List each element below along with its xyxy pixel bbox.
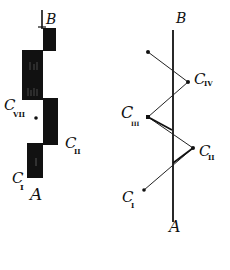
point-c-i xyxy=(142,188,146,192)
left-label-a: A xyxy=(28,184,42,204)
left-label-c-i: C I xyxy=(12,169,24,192)
left-label-c-ii: C II xyxy=(65,134,81,156)
left-diagram: B C VII C II C xyxy=(4,10,81,204)
left-label-c-vii: C VII xyxy=(4,96,25,119)
bottom-block xyxy=(27,143,43,178)
top-block xyxy=(43,28,56,51)
svg-text:III: III xyxy=(131,120,140,127)
svg-text:I: I xyxy=(20,182,24,192)
right-label-c-ii: C II xyxy=(199,142,215,162)
right-label-b: B xyxy=(175,10,186,26)
right-label-c-i: C I xyxy=(122,188,134,210)
thick-segment-2 xyxy=(173,148,193,163)
left-label-b: B xyxy=(45,11,56,27)
center-dot xyxy=(34,116,38,120)
right-label-a: A xyxy=(167,217,181,236)
large-block xyxy=(22,50,43,100)
point-c-ii xyxy=(191,146,195,150)
middle-block xyxy=(43,98,58,145)
point-c-iii xyxy=(146,115,150,119)
svg-text:IV: IV xyxy=(204,79,213,88)
svg-text:I: I xyxy=(131,201,134,210)
right-label-c-iv: C IV xyxy=(194,70,213,88)
right-label-c-iii: C III xyxy=(121,103,140,127)
thick-segment-1 xyxy=(148,117,172,130)
zigzag-path xyxy=(144,52,193,190)
svg-text:II: II xyxy=(74,147,81,156)
diagram-canvas: B C VII C II C xyxy=(0,0,230,270)
svg-text:II: II xyxy=(208,153,215,162)
point-c-iv xyxy=(186,80,190,84)
right-diagram: B C IV C III C II C I xyxy=(121,10,215,236)
svg-text:VII: VII xyxy=(12,110,25,119)
point-start xyxy=(146,50,150,54)
